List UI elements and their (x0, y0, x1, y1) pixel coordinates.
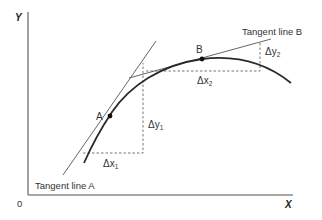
curve (84, 58, 291, 163)
delta-y2-subscript: 2 (277, 51, 281, 58)
delta-x2-subscript: 2 (209, 80, 213, 87)
delta-x1-subscript: 1 (115, 163, 119, 170)
tangent-line-a (63, 41, 156, 175)
x-axis-label: X (284, 199, 293, 210)
point-b-label: B (196, 44, 203, 55)
tangent-labels: Tangent line A Tangent line B (35, 26, 302, 191)
y-axis-label: Y (15, 12, 23, 23)
delta-x1-symbol: Δx (103, 158, 115, 169)
delta-labels: Δx1 Δy1 Δx2 Δy2 (103, 46, 281, 170)
delta-y1-subscript: 1 (160, 124, 164, 131)
delta-y2-label: Δy2 (265, 46, 281, 58)
origin-label: 0 (17, 198, 22, 209)
tangent-line-a-label: Tangent line A (35, 180, 95, 191)
delta-x1-label: Δx1 (103, 158, 119, 170)
tangent-line-b-label: Tangent line B (242, 26, 302, 37)
point-a-label: A (96, 111, 103, 122)
tangent-slope-diagram: Y X 0 A B Tangent line A Tangent line B … (0, 0, 322, 220)
delta-x2-label: Δx2 (197, 75, 213, 87)
point-a-marker (108, 114, 113, 119)
delta-y2-symbol: Δy (265, 46, 277, 57)
delta-x2-symbol: Δx (197, 75, 209, 86)
point-b-marker (200, 57, 205, 62)
delta-y1-symbol: Δy (148, 119, 160, 130)
delta-y1-label: Δy1 (148, 119, 164, 131)
